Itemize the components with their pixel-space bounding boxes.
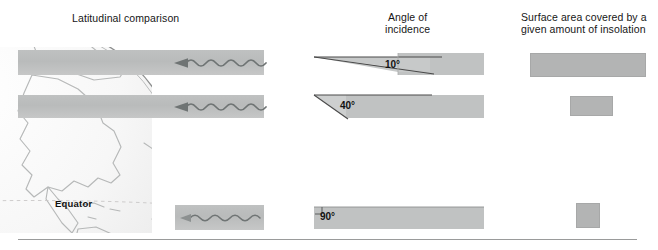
angle-wedge-40deg: [312, 93, 484, 121]
angle-label-90deg: 90°: [320, 211, 335, 222]
sun-ray-arrow-equatorial: [176, 210, 266, 226]
surface-area-patch-largest: [530, 53, 646, 77]
insolation-angle-diagram: Latitudinal comparison Angle of incidenc…: [0, 0, 658, 250]
surface-area-patch-medium: [570, 96, 613, 116]
sun-ray-arrow-middle-latitude: [170, 99, 270, 115]
bottom-rule: [18, 239, 637, 240]
angle-label-10deg: 10°: [385, 59, 400, 70]
angle-label-40deg: 40°: [340, 100, 355, 111]
column-heading-angle-of-incidence: Angle of incidence: [385, 11, 430, 35]
angle-wedge-90deg: [312, 205, 484, 231]
sun-ray-arrow-high-latitude: [170, 55, 270, 71]
surface-area-patch-smallest: [576, 203, 600, 228]
column-heading-surface-area: Surface area covered by a given amount o…: [521, 11, 647, 35]
equator-label: Equator: [55, 198, 92, 209]
column-heading-latitudinal: Latitudinal comparison: [72, 12, 179, 24]
